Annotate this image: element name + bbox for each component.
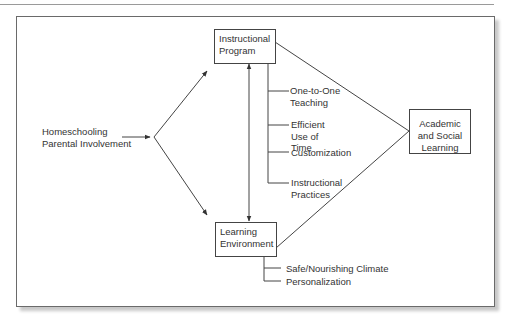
component-safe-nourishing-climate: Safe/Nourishing Climate [286,263,388,275]
component-customization: Customization [291,147,351,159]
component-personalization: Personalization [286,276,351,288]
program-bracket [268,63,289,183]
learning-environment-label: Learning Environment [220,226,276,250]
component-instructional-practices: Instructional Practices [291,177,342,200]
learning-environment-box: Learning Environment [215,222,277,257]
fork-arrow-down [154,137,207,215]
component-one-to-one-teaching: One-to-One Teaching [290,85,340,108]
outcome-label: Academic and Social Learning [410,118,470,154]
source-label: Homeschooling Parental Involvement [42,126,131,149]
instructional-program-label: Instructional Program [219,33,275,57]
instructional-program-box: Instructional Program [214,29,276,64]
outcome-box: Academic and Social Learning [409,109,471,154]
fork-arrow-up [154,71,207,137]
